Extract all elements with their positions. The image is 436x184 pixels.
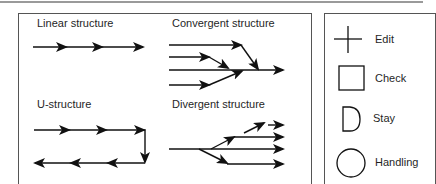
legend-stay-label: Stay (373, 112, 395, 125)
legend-edit-label: Edit (375, 33, 394, 46)
circle-icon (337, 149, 365, 177)
divergent-structure-arrows (169, 123, 283, 164)
legend-check-label: Check (375, 72, 406, 85)
d-shape-icon (343, 107, 360, 131)
plus-icon (334, 26, 362, 53)
convergent-structure-arrows (169, 45, 283, 85)
u-structure-arrows (34, 130, 145, 163)
legend-handling-label: Handling (375, 156, 418, 169)
square-icon (339, 66, 364, 90)
